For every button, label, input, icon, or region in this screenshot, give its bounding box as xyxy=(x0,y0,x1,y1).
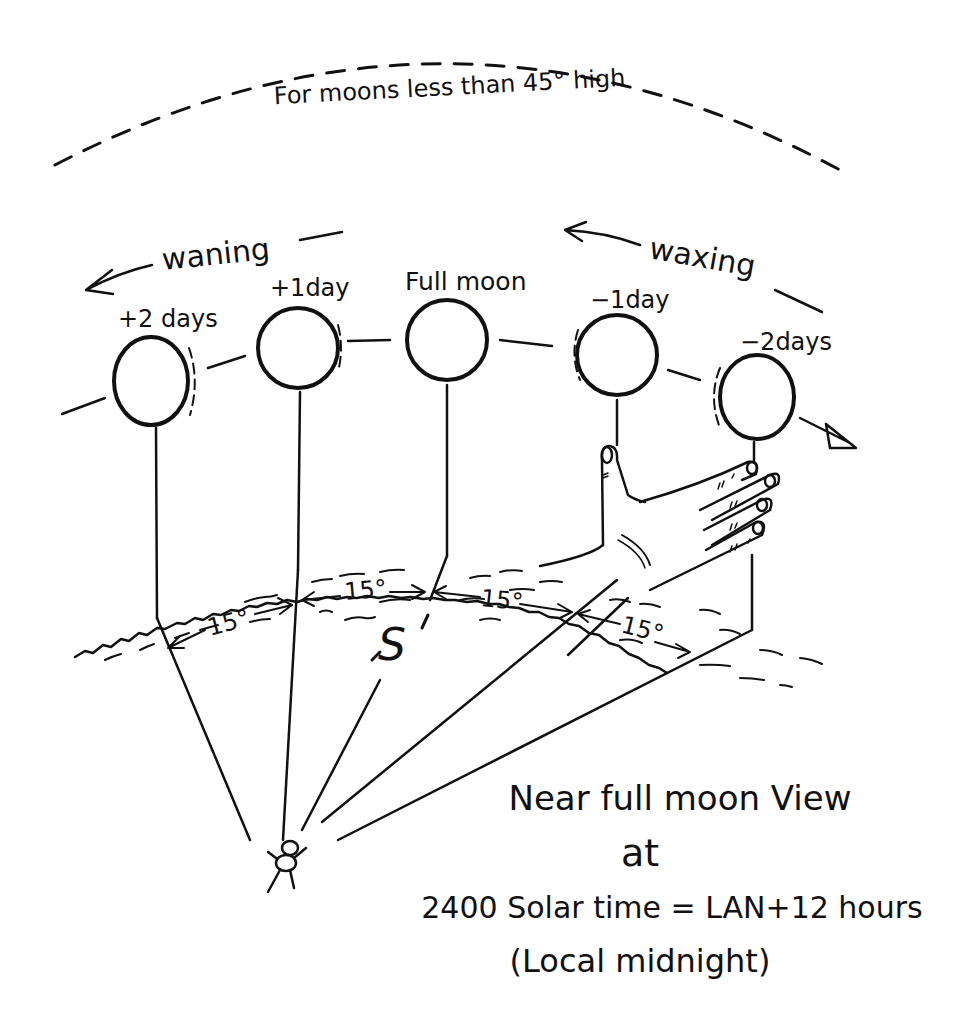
moon-view-diagram: For moons less than 45° high waning waxi… xyxy=(0,0,970,1033)
moon-label: +2 days xyxy=(118,305,218,333)
moon-path-segment xyxy=(208,356,245,368)
moon-full: Full moon xyxy=(405,267,526,380)
waxing-dash xyxy=(775,290,822,312)
moon-minus-1-day: −1day xyxy=(574,286,669,395)
angle-label: 15° xyxy=(204,604,252,642)
moon-path-segment xyxy=(500,340,552,346)
moon-minus-2-days: −2days xyxy=(714,328,832,439)
waxing-arrow xyxy=(565,222,640,245)
moon-plus-2-days: +2 days xyxy=(114,305,218,425)
moon-label: −2days xyxy=(740,328,832,356)
moon-label: −1day xyxy=(590,286,670,314)
angle-label: 15° xyxy=(479,584,524,616)
title-line-1: Near full moon View xyxy=(509,778,852,818)
moon-motion-arrow xyxy=(800,418,856,448)
title-line-2: at xyxy=(621,831,659,875)
waning-label: waning xyxy=(160,231,271,277)
moon-label: Full moon xyxy=(405,267,526,296)
svg-text:S: S xyxy=(378,619,406,670)
angle-label: 15° xyxy=(343,574,388,606)
title-line-4: (Local midnight) xyxy=(510,942,771,980)
measuring-hand-icon xyxy=(540,446,779,590)
observer-figure-icon xyxy=(268,841,306,892)
angle-label: 15° xyxy=(619,611,667,648)
moon-path-segment xyxy=(668,370,700,380)
south-direction-mark: S xyxy=(372,615,428,670)
waning-arrow xyxy=(86,265,152,294)
title-block: Near full moon View at 2400 Solar time =… xyxy=(421,778,922,980)
diagram-canvas: For moons less than 45° high waning waxi… xyxy=(0,0,970,1033)
title-line-3: 2400 Solar time = LAN+12 hours xyxy=(421,890,922,925)
moon-path-segment xyxy=(348,340,390,341)
vertical-drop-lines xyxy=(156,385,754,630)
moon-plus-1-day: +1day xyxy=(258,274,350,388)
moon-label: +1day xyxy=(270,274,350,302)
waxing-label: waxing xyxy=(647,230,759,283)
top-caption: For moons less than 45° high xyxy=(273,64,626,110)
waning-dash xyxy=(300,232,342,240)
moon-path-arc xyxy=(62,398,105,414)
